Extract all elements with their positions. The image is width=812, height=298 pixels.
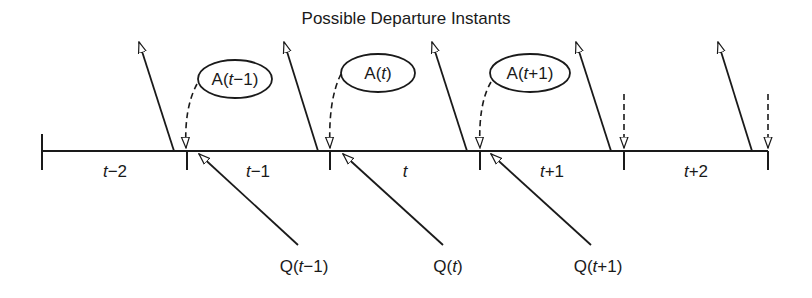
queue-labels: Q(t−1) Q(t) Q(t+1): [280, 257, 623, 276]
arrival-dashed-arrow-icon: [186, 84, 197, 148]
queue-label: Q(t+1): [574, 257, 623, 276]
departure-arrow-icon: [432, 42, 467, 151]
interval-label: t+1: [540, 162, 564, 181]
diagram-title: Possible Departure Instants: [302, 9, 511, 28]
departure-arrow-icon: [718, 42, 752, 151]
departure-arrow-icon: [576, 42, 611, 151]
arrival-label-t-minus-1: A(t−1): [198, 60, 272, 98]
interval-label: t−2: [103, 162, 127, 181]
queue-label: Q(t): [433, 257, 462, 276]
queue-label: Q(t−1): [280, 257, 329, 276]
arrival-dashed-arrow-icon: [330, 74, 341, 148]
svg-text:A(t): A(t): [364, 64, 391, 83]
arrival-arrows: [186, 74, 768, 148]
interval-label: t+2: [684, 162, 708, 181]
interval-label: t−1: [246, 162, 270, 181]
arrival-label-t: A(t): [341, 54, 415, 92]
interval-labels: t−2 t−1 t t+1 t+2: [103, 162, 708, 181]
arrival-dashed-arrow-icon: [480, 82, 491, 148]
departure-timeline-diagram: Possible Departure Instants A(t−1) A(: [0, 0, 812, 298]
arrival-label-t-plus-1: A(t+1): [490, 54, 570, 92]
svg-text:A(t−1): A(t−1): [212, 70, 259, 89]
interval-label: t: [403, 162, 409, 181]
departure-arrow-icon: [139, 42, 174, 151]
arrival-labels: A(t−1) A(t) A(t+1): [198, 54, 570, 98]
svg-text:A(t+1): A(t+1): [507, 64, 554, 83]
departure-arrow-icon: [284, 42, 318, 151]
queue-arrow-icon: [343, 154, 443, 245]
